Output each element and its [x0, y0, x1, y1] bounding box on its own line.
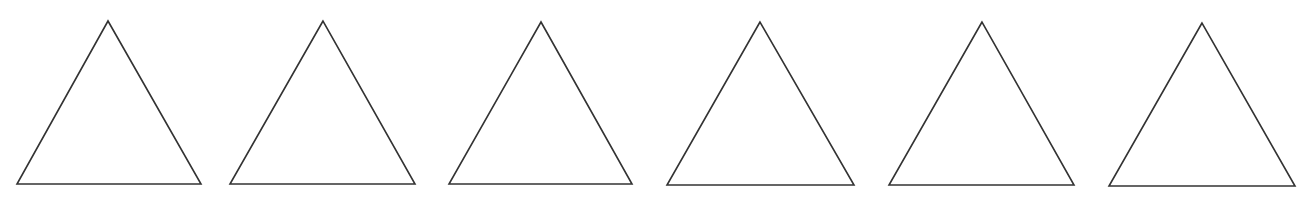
- triangle-4: [667, 22, 854, 185]
- triangle-diagram: [0, 0, 1310, 208]
- triangle-2: [230, 21, 415, 184]
- triangle-5: [889, 22, 1074, 185]
- triangle-3: [449, 22, 632, 184]
- triangles-group: [17, 21, 1295, 186]
- triangle-6: [1109, 23, 1295, 186]
- triangle-1: [17, 21, 201, 184]
